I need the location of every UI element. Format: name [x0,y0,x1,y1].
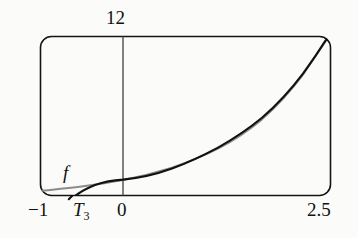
plot-frame [41,37,331,196]
curve-t3-tail [69,196,72,199]
curve-f [41,40,326,191]
axis-label-taylor-t3: T3 [73,200,90,219]
taylor-polynomial-figure: 12 −1 T3 0 2.5 f [0,0,358,238]
axis-label-x-origin: 0 [117,200,127,219]
axis-label-y-max: 12 [106,8,125,27]
plot-canvas [0,0,358,238]
taylor-subscript-glyph: 3 [84,209,90,223]
axis-label-x-min: −1 [28,200,48,219]
curve-label-f: f [63,163,68,182]
curve-t3 [72,39,327,199]
taylor-t-glyph: T [73,199,84,220]
axis-label-x-max: 2.5 [307,200,331,219]
